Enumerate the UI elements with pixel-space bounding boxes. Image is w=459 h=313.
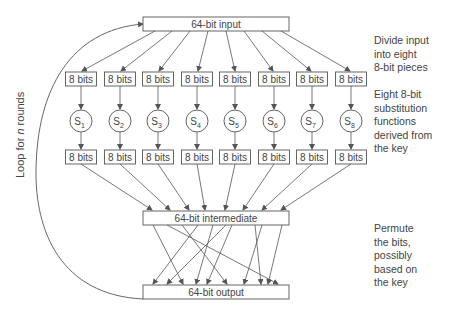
piece-label: 8 bits	[223, 74, 247, 85]
input-piece-box: 8 bits	[336, 72, 367, 86]
annotation-line: substitution	[374, 102, 432, 116]
annotation-line: Eight 8-bit	[374, 88, 432, 102]
piece-label: 8 bits	[185, 74, 209, 85]
piece-label: 8 bits	[339, 74, 363, 85]
input-piece-box: 8 bits	[182, 72, 213, 86]
output-piece-box: 8 bits	[105, 150, 136, 164]
piece-label: 8 bits	[108, 152, 132, 163]
input-piece-box: 8 bits	[105, 72, 136, 86]
sbox-columns: 8 bitsS18 bits8 bitsS28 bits8 bitsS38 bi…	[66, 72, 367, 164]
sbox-column: 8 bitsS18 bits	[66, 72, 97, 164]
piece-label: 8 bits	[339, 152, 363, 163]
annotation-divide: Divide input into eight 8-bit pieces	[374, 34, 429, 75]
input-piece-box: 8 bits	[220, 72, 251, 86]
piece-label: 8 bits	[223, 152, 247, 163]
output-piece-box: 8 bits	[336, 150, 367, 164]
output-piece-box: 8 bits	[259, 150, 290, 164]
annotation-line: the bits,	[374, 236, 417, 250]
output-piece-box: 8 bits	[220, 150, 251, 164]
input-piece-box: 8 bits	[143, 72, 174, 86]
sbox-1: S1	[70, 110, 92, 132]
annotation-line: possibly	[374, 249, 417, 263]
input-piece-box: 8 bits	[259, 72, 290, 86]
input-box: 64-bit input	[143, 17, 289, 31]
annotation-line: derived from	[374, 129, 432, 143]
piece-label: 8 bits	[262, 152, 286, 163]
piece-label: 8 bits	[185, 152, 209, 163]
piece-label: 8 bits	[146, 152, 170, 163]
piece-label: 8 bits	[146, 74, 170, 85]
output-box-label: 64-bit output	[188, 287, 244, 298]
input-piece-box: 8 bits	[66, 72, 97, 86]
piece-label: 8 bits	[300, 74, 324, 85]
loop-label: Loop for n rounds	[14, 92, 26, 178]
annotation-line: functions	[374, 115, 432, 129]
sbox-8: S8	[340, 110, 362, 132]
sbox-column: 8 bitsS58 bits	[220, 72, 251, 164]
piece-label: 8 bits	[300, 152, 324, 163]
loop-label-var: n	[14, 128, 26, 134]
output-piece-box: 8 bits	[143, 150, 174, 164]
sbox-column: 8 bitsS78 bits	[297, 72, 328, 164]
piece-label: 8 bits	[108, 74, 132, 85]
loop-label-prefix: Loop for	[14, 135, 26, 178]
sbox-column: 8 bitsS38 bits	[143, 72, 174, 164]
sbox-column: 8 bitsS88 bits	[336, 72, 367, 164]
annotation-substitute: Eight 8-bit substitution functions deriv…	[374, 88, 432, 156]
input-piece-box: 8 bits	[297, 72, 328, 86]
sbox-7: S7	[301, 110, 323, 132]
permutation-arrows	[153, 225, 282, 284]
intermediate-box: 64-bit intermediate	[143, 211, 289, 225]
annotation-line: Permute	[374, 222, 417, 236]
annotation-line: the key	[374, 276, 417, 290]
annotation-line: Divide input	[374, 34, 429, 48]
annotation-line: 8-bit pieces	[374, 61, 429, 75]
loop-label-suffix: rounds	[14, 92, 26, 129]
sbox-5: S5	[224, 110, 246, 132]
sbox-column: 8 bitsS48 bits	[182, 72, 213, 164]
sbox-3: S3	[147, 110, 169, 132]
split-arrows	[82, 31, 350, 71]
sbox-4: S4	[186, 110, 208, 132]
annotation-line: into eight	[374, 48, 429, 62]
sbox-2: S2	[109, 110, 131, 132]
intermediate-box-label: 64-bit intermediate	[175, 213, 258, 224]
merge-arrows	[81, 164, 351, 210]
output-box: 64-bit output	[143, 285, 289, 299]
annotation-line: based on	[374, 263, 417, 277]
piece-label: 8 bits	[69, 152, 93, 163]
output-piece-box: 8 bits	[297, 150, 328, 164]
piece-label: 8 bits	[262, 74, 286, 85]
sbox-column: 8 bitsS28 bits	[105, 72, 136, 164]
output-piece-box: 8 bits	[182, 150, 213, 164]
annotation-permute: Permute the bits, possibly based on the …	[374, 222, 417, 290]
annotation-line: the key	[374, 142, 432, 156]
output-piece-box: 8 bits	[66, 150, 97, 164]
piece-label: 8 bits	[69, 74, 93, 85]
sbox-6: S6	[263, 110, 285, 132]
input-box-label: 64-bit input	[191, 19, 241, 30]
sbox-column: 8 bitsS68 bits	[259, 72, 290, 164]
